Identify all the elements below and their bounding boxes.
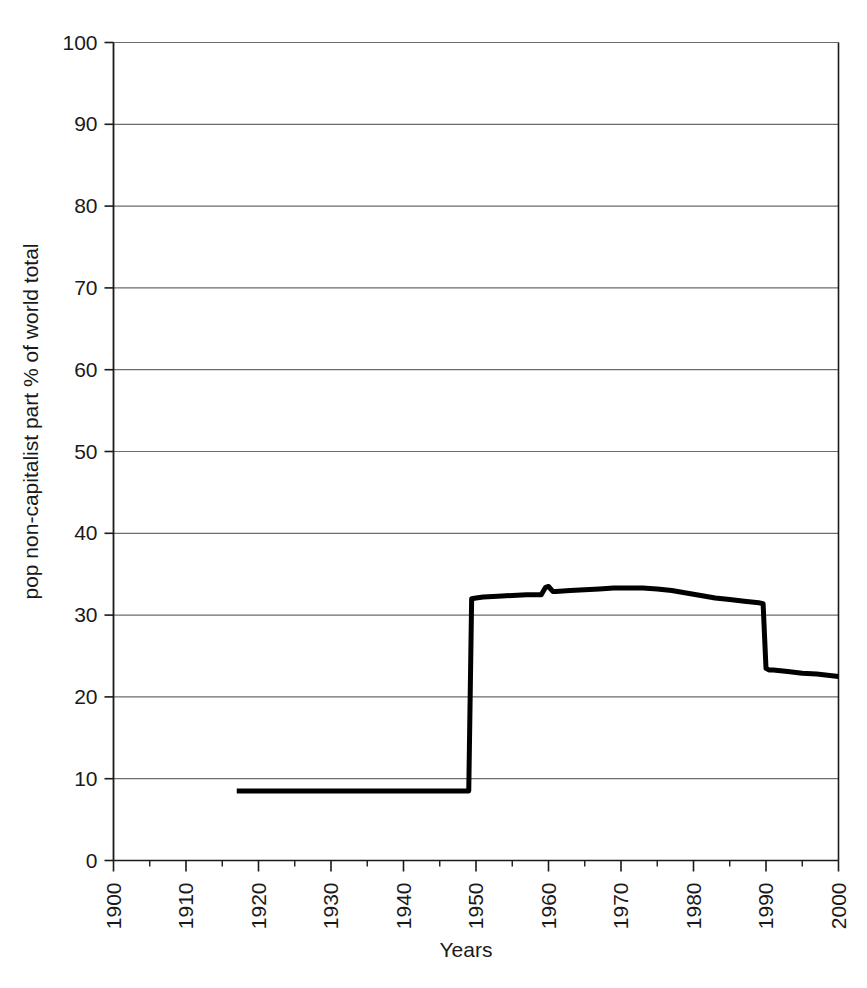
x-tick-label: 1920 — [247, 883, 270, 930]
y-tick-label: 10 — [74, 767, 97, 790]
y-tick-label: 80 — [74, 194, 97, 217]
x-tick-label: 1990 — [754, 883, 777, 930]
chart-figure: 0102030405060708090100190019101920193019… — [0, 0, 867, 988]
y-axis-title: pop non-capitalist part % of world total — [19, 243, 42, 599]
data-line — [237, 586, 839, 791]
y-tick-label: 100 — [62, 31, 97, 54]
x-axis-ticks: 1900191019201930194019501960197019801990… — [102, 861, 850, 930]
x-tick-label: 1910 — [174, 883, 197, 930]
y-tick-label: 70 — [74, 276, 97, 299]
x-tick-label: 1930 — [319, 883, 342, 930]
y-tick-label: 20 — [74, 685, 97, 708]
gridlines — [114, 43, 839, 779]
y-tick-label: 30 — [74, 603, 97, 626]
y-tick-label: 60 — [74, 358, 97, 381]
x-tick-label: 1980 — [682, 883, 705, 930]
line-chart: 0102030405060708090100190019101920193019… — [0, 0, 867, 988]
x-tick-label: 1960 — [537, 883, 560, 930]
y-tick-label: 0 — [86, 849, 98, 872]
y-tick-label: 90 — [74, 112, 97, 135]
y-axis-ticks: 0102030405060708090100 — [62, 31, 113, 872]
data-series-group — [237, 586, 839, 791]
y-tick-label: 40 — [74, 521, 97, 544]
x-tick-label: 2000 — [827, 883, 850, 930]
x-tick-label: 1940 — [392, 883, 415, 930]
x-axis-title: Years — [440, 938, 493, 961]
x-tick-label: 1950 — [464, 883, 487, 930]
y-tick-label: 50 — [74, 440, 97, 463]
x-tick-label: 1970 — [609, 883, 632, 930]
x-tick-label: 1900 — [102, 883, 125, 930]
